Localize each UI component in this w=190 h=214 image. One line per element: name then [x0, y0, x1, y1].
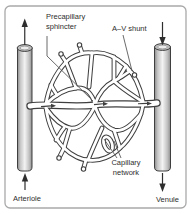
capillary-bed-figure: Precapillary sphincter A–V shunt Capilla…	[0, 0, 190, 214]
precapillary-sphincter-label-line2: sphincter	[46, 22, 77, 31]
stub-end-bottom-left	[57, 156, 61, 160]
venule-tube	[155, 44, 171, 171]
av-shunt-label: A–V shunt	[112, 24, 148, 33]
venule-outflow-arrow	[159, 173, 165, 192]
venule-top-arrow	[159, 22, 165, 46]
stub-end-bottom-mid	[81, 167, 85, 171]
arteriole-inflow-arrow	[22, 173, 28, 190]
arteriole-top-arrow	[22, 19, 28, 46]
capillary-network-label-line1: Capillary	[111, 158, 140, 167]
capillary-network	[30, 47, 157, 167]
venule-label: Venule	[156, 195, 179, 204]
precapillary-sphincter-label-line1: Precapillary	[46, 12, 85, 21]
stub-end-top-mid	[77, 43, 81, 47]
figure-canvas: Precapillary sphincter A–V shunt Capilla…	[0, 0, 190, 214]
capillary-network-label-line2: network	[113, 168, 140, 177]
av-shunt-stub-end	[132, 73, 136, 77]
stub-end-top-left	[59, 52, 63, 56]
arteriole-label: Arteriole	[13, 194, 41, 203]
